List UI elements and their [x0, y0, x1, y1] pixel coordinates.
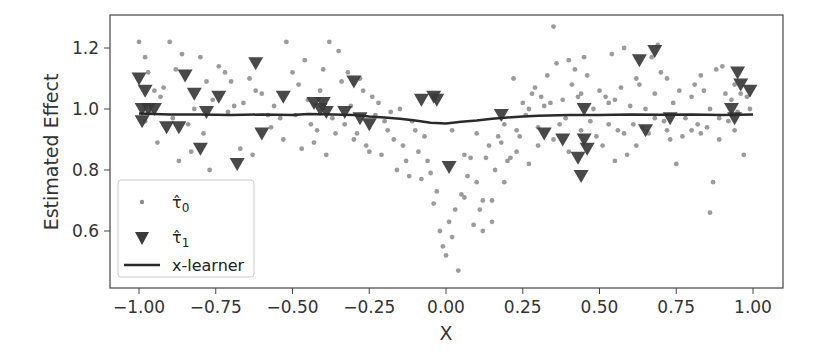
tau0-point	[327, 40, 332, 45]
tau0-point	[579, 91, 584, 96]
tau1-point	[555, 134, 570, 147]
tau0-point	[490, 198, 495, 203]
tau1-point	[414, 94, 429, 107]
tau0-point	[637, 82, 642, 87]
tau0-point	[477, 207, 482, 212]
tau0-point	[158, 94, 163, 99]
tau0-point	[527, 107, 532, 112]
tau0-point	[652, 91, 657, 96]
tau0-point	[204, 79, 209, 84]
tau1-point	[638, 124, 653, 137]
tau0-point	[170, 116, 175, 121]
tau0-point	[207, 168, 212, 173]
tau0-point	[520, 101, 525, 106]
tau0-point	[407, 174, 412, 179]
legend-label-xlearner: x-learner	[172, 256, 245, 275]
x-tick-label: −0.75	[190, 297, 242, 317]
tau0-point	[333, 131, 338, 136]
tau0-point	[588, 119, 593, 124]
tau0-point	[582, 55, 587, 60]
y-tick-label: 0.8	[72, 160, 99, 180]
tau0-point	[419, 177, 424, 182]
tau0-point	[376, 101, 381, 106]
tau0-point	[398, 107, 403, 112]
tau0-point	[748, 107, 753, 112]
x-tick-label: −0.25	[343, 297, 395, 317]
tau1-point	[730, 66, 745, 79]
tau0-point	[401, 143, 406, 148]
tau0-point	[548, 101, 553, 106]
tau1-point	[494, 109, 509, 122]
tau0-point	[391, 137, 396, 142]
tau0-point	[622, 46, 627, 51]
tau0-point	[708, 210, 713, 215]
tau0-point	[336, 49, 341, 54]
tau1-point	[337, 106, 352, 119]
tau0-point	[450, 235, 455, 240]
tau0-point	[355, 131, 360, 136]
tau0-point	[671, 101, 676, 106]
tau0-point	[259, 91, 264, 96]
tau0-point	[201, 131, 206, 136]
tau0-point	[318, 88, 323, 93]
tau1-point	[199, 106, 214, 119]
tau0-point	[634, 143, 639, 148]
tau0-point	[591, 107, 596, 112]
chart: −1.00−0.75−0.50−0.250.000.250.500.751.00…	[0, 0, 818, 360]
tau0-point	[514, 128, 519, 133]
tau0-point	[680, 134, 685, 139]
tau0-point	[216, 64, 221, 69]
tau0-point	[161, 85, 166, 90]
tau0-point	[677, 88, 682, 93]
tau0-point	[395, 168, 400, 173]
tau1-point	[276, 91, 291, 104]
x-tick-label: −1.00	[113, 297, 165, 317]
tau0-point	[345, 70, 350, 75]
tau0-point	[585, 73, 590, 78]
tau0-point	[527, 162, 532, 167]
tau0-point	[284, 40, 289, 45]
tau1-point	[254, 127, 269, 140]
tau0-point	[717, 137, 722, 142]
tau0-point	[413, 128, 418, 133]
tau0-point	[634, 76, 639, 81]
tau1-point	[193, 143, 208, 156]
legend-label-tau0-base: τ̂	[172, 193, 182, 212]
tau0-point	[468, 155, 473, 160]
y-tick-label: 0.6	[72, 221, 99, 241]
tau0-point	[542, 104, 547, 109]
tau0-point	[683, 116, 688, 121]
tau0-point	[330, 116, 335, 121]
tau0-point	[361, 88, 366, 93]
y-tick-label: 1.0	[72, 99, 99, 119]
tau0-point	[554, 61, 559, 66]
tau0-point	[708, 107, 713, 112]
tau1-point	[248, 57, 263, 70]
tau0-point	[566, 58, 571, 63]
tau1-point	[132, 73, 147, 86]
tau1-point	[159, 121, 174, 134]
tau1-point	[346, 76, 361, 89]
tau0-point	[367, 149, 372, 154]
legend-label-tau1-sub: 1	[182, 236, 190, 250]
tau0-point	[474, 180, 479, 185]
tau0-point	[705, 125, 710, 130]
tau0-point	[729, 97, 734, 102]
tau0-point	[480, 229, 485, 234]
tau0-point	[416, 149, 421, 154]
tau0-point	[152, 88, 157, 93]
tau0-point	[450, 128, 455, 133]
tau0-point	[563, 116, 568, 121]
tau0-point	[698, 73, 703, 78]
x-tick-label: 0.00	[427, 297, 465, 317]
tau0-point	[177, 159, 182, 164]
tau1-point	[632, 54, 647, 67]
tau0-point	[659, 70, 664, 75]
tau0-point	[557, 122, 562, 127]
tau0-point	[296, 82, 301, 87]
tau0-point	[539, 94, 544, 99]
tau0-point	[619, 85, 624, 90]
tau0-point	[404, 159, 409, 164]
x-tick-label: 0.50	[581, 297, 619, 317]
tau0-point	[312, 140, 317, 145]
